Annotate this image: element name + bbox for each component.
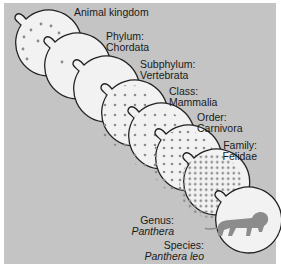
label-order: Order: Carnivora (197, 112, 243, 134)
label-class: Class: Mammalia (169, 86, 217, 108)
label-genus: Genus: Panthera (131, 215, 174, 237)
label-animal-kingdom: Animal kingdom (74, 7, 149, 18)
label-subphylum: Subphylum: Vertebrata (140, 59, 195, 81)
label-species: Species: Panthera leo (144, 240, 204, 262)
circle-species (205, 187, 281, 253)
label-family: Family: Felidae (223, 140, 257, 162)
label-phylum: Phylum: Chordata (106, 31, 149, 53)
